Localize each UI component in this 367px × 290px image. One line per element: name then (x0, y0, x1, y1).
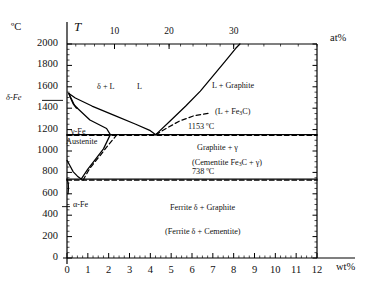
top-axis-unit-label: at% (330, 33, 346, 44)
top-tick-label: 10 (101, 27, 129, 37)
phase-diagram-figure: ºC T at% wt% 020040060080010001200140016… (0, 0, 367, 290)
annotation-cementite-plus-gamma: (Cementite Fe3C + γ) (192, 159, 262, 168)
y-tick-label: 1400 (10, 102, 58, 113)
y-axis-symbol-label: T (74, 20, 81, 33)
y-tick-label: 1600 (10, 81, 58, 92)
y-tick-label: 600 (10, 188, 58, 199)
annotation-liquid: L (137, 83, 142, 91)
annotation-liquid-plus-graphite: L + Graphite (212, 82, 254, 90)
annotation-ferrite-plus-graphite: Ferrite δ + Graphite (170, 204, 235, 212)
top-tick-label: 20 (155, 27, 183, 37)
annotation-liquid-plus-cementite: (L + Fe3C) (215, 108, 250, 117)
y-tick-label: 1800 (10, 59, 58, 70)
y-tick-label: 400 (10, 209, 58, 220)
annotation-ferrite-plus-cementite: (Ferrite δ + Cementite) (165, 228, 241, 236)
annotation-delta-plus-liquid: δ + L (97, 83, 115, 91)
annotation-alpha-fe: α-Fe (73, 201, 88, 209)
annotation-austenite: Austenite (66, 138, 97, 146)
y-tick-label: 1000 (10, 145, 58, 156)
y-tick-label: 2000 (10, 38, 58, 49)
x-tick-label: 12 (303, 265, 331, 276)
x-axis-unit-label: wt% (336, 262, 355, 273)
top-tick-label: 30 (220, 27, 248, 37)
y-tick-label: 1200 (10, 124, 58, 135)
curve-a3-gamma-alpha (67, 160, 81, 179)
curve-delta-gamma-boundary (69, 93, 78, 108)
y-tick-label: 200 (10, 231, 58, 242)
annotation-eutectoid-temperature: 738 ºC (192, 168, 214, 176)
annotation-gamma-fe: γ-Fe (71, 128, 86, 136)
annotation-eutectic-temperature: 1153 ºC (188, 123, 214, 131)
y-tick-label: 0 (10, 252, 58, 263)
y-axis-unit-label: ºC (11, 22, 21, 33)
annotation-delta-fe: δ-Fe (6, 94, 22, 102)
y-tick-label: 800 (10, 166, 58, 177)
annotation-graphite-plus-gamma: Graphite + γ (197, 144, 238, 152)
